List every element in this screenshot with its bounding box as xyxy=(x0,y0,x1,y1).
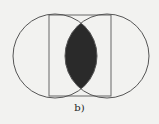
figure-caption: b) xyxy=(0,102,159,113)
